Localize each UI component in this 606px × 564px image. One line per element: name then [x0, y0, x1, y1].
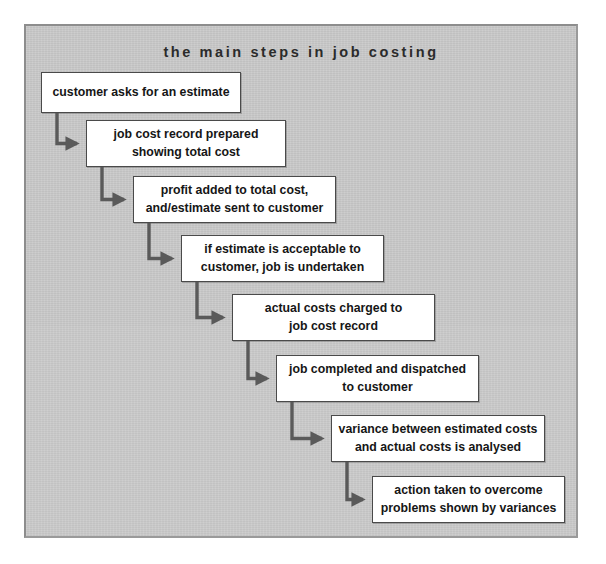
flow-step-text-line: to customer: [342, 379, 412, 396]
flow-step-box: profit added to total cost,and/estimate …: [133, 176, 336, 223]
flow-step-box: action taken to overcomeproblems shown b…: [372, 476, 565, 523]
flow-connector-arrow: [57, 113, 77, 144]
flow-connector-arrow: [102, 167, 124, 200]
flow-step-box: job cost record preparedshowing total co…: [86, 120, 286, 167]
diagram-canvas: the main steps in job costing customer a…: [0, 0, 606, 564]
flow-step-text-line: customer asks for an estimate: [52, 84, 229, 101]
flow-step-text-line: showing total cost: [132, 144, 240, 161]
flow-step-text-line: variance between estimated costs: [339, 421, 538, 438]
flow-step-text-line: action taken to overcome: [394, 482, 542, 499]
flow-step-text-line: problems shown by variances: [381, 500, 557, 517]
flow-connector-arrow: [149, 223, 172, 259]
flow-step-text-line: job completed and dispatched: [289, 361, 466, 378]
flow-connector-arrow: [248, 341, 267, 379]
flow-step-text-line: actual costs charged to: [265, 300, 402, 317]
flow-connector-arrow: [347, 462, 363, 500]
flow-step-text-line: and/estimate sent to customer: [146, 200, 324, 217]
flow-step-text-line: if estimate is acceptable to: [204, 241, 361, 258]
flow-connector-arrow: [292, 402, 322, 439]
flow-step-box: actual costs charged tojob cost record: [232, 294, 435, 341]
flow-connector-arrow: [197, 282, 223, 318]
flow-step-text-line: and actual costs is analysed: [355, 439, 521, 456]
flow-step-box: if estimate is acceptable tocustomer, jo…: [181, 235, 384, 282]
flow-step-text-line: job cost record: [289, 318, 378, 335]
diagram-panel: the main steps in job costing customer a…: [24, 24, 578, 538]
flow-step-text-line: profit added to total cost,: [161, 182, 309, 199]
page-title: the main steps in job costing: [26, 44, 576, 60]
flow-step-text-line: job cost record prepared: [114, 126, 259, 143]
flow-step-box: customer asks for an estimate: [41, 72, 241, 113]
flow-step-box: job completed and dispatchedto customer: [276, 355, 479, 402]
flow-step-box: variance between estimated costsand actu…: [331, 415, 545, 462]
flow-step-text-line: customer, job is undertaken: [201, 259, 364, 276]
